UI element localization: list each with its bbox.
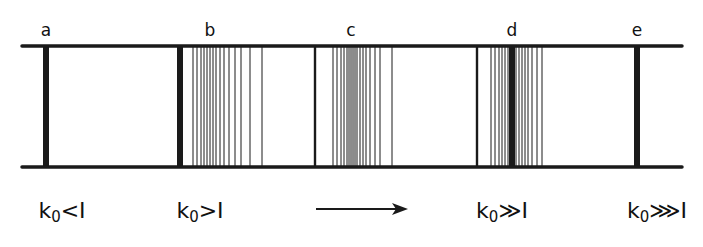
condition-e-rel: ⋙I: [649, 198, 687, 223]
condition-b: k0>I: [176, 200, 223, 225]
panel-label-c: c: [346, 22, 355, 39]
condition-a: k0<I: [38, 200, 85, 225]
condition-d-sub: 0: [489, 208, 499, 226]
condition-d-rel: ≫I: [498, 198, 528, 223]
condition-d-base: k: [476, 198, 489, 223]
condition-b-rel: >I: [199, 198, 224, 223]
condition-a-base: k: [38, 198, 51, 223]
condition-a-sub: 0: [51, 208, 61, 226]
condition-b-sub: 0: [189, 208, 199, 226]
condition-a-rel: <I: [61, 198, 86, 223]
panel-label-d: d: [507, 22, 518, 39]
condition-e-base: k: [627, 198, 640, 223]
arrow-right-icon: [316, 203, 408, 215]
condition-e: k0⋙I: [627, 200, 687, 225]
panel-label-a: a: [41, 22, 51, 39]
panel-label-b: b: [205, 22, 216, 39]
condition-b-base: k: [176, 198, 189, 223]
condition-e-sub: 0: [640, 208, 650, 226]
panel-label-e: e: [632, 22, 642, 39]
spectral-lines: [46, 46, 637, 167]
condition-d: k0≫I: [476, 200, 528, 225]
